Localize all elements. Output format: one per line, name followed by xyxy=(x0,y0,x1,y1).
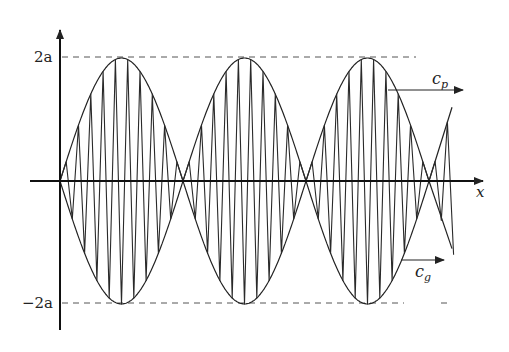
wave-diagram: 2a −2a x cp cg xyxy=(0,0,509,352)
wave-diagram-svg: 2a −2a x cp cg xyxy=(0,0,509,352)
phase-velocity-label: cp xyxy=(432,69,448,91)
x-axis-label: x xyxy=(476,183,485,201)
group-velocity-label: cg xyxy=(415,262,431,284)
y-label-top: 2a xyxy=(34,48,53,66)
y-label-bottom: −2a xyxy=(22,294,53,312)
